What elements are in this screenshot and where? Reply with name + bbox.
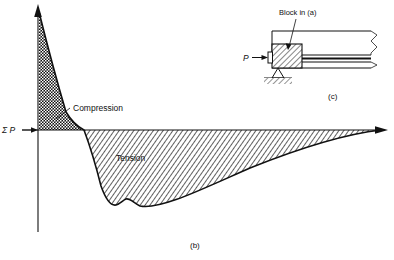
tension-region-fill	[80, 125, 390, 220]
sum-p-label-group: Σ P	[1, 125, 38, 135]
load-arrow-group: P	[243, 53, 268, 63]
load-label: P	[243, 53, 249, 63]
pin-support	[264, 68, 292, 84]
compression-label: Compression	[73, 103, 123, 113]
caption-b: (b)	[190, 241, 200, 250]
caption-c: (c)	[328, 92, 338, 101]
tension-label: Tension	[116, 153, 146, 163]
figure-svg: Σ P Compression Tension (b)	[0, 0, 394, 260]
sum-p-label: Σ P	[1, 125, 15, 135]
block-in-a-label: Block in (a)	[279, 8, 317, 17]
compression-region-fill	[30, 5, 100, 135]
inset-diagram: P Block in (a) (c)	[243, 8, 377, 101]
stress-plot: Σ P Compression Tension (b)	[1, 4, 390, 250]
bearing-plate	[268, 52, 273, 63]
block-in-a	[272, 44, 302, 68]
figure-container: Σ P Compression Tension (b)	[0, 0, 394, 260]
